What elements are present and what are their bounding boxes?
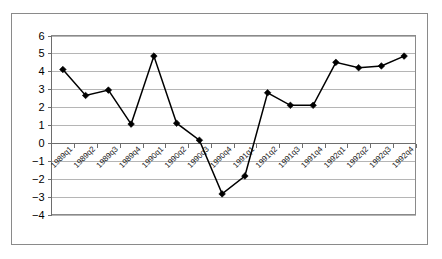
- y-tick-label: −3: [32, 191, 45, 203]
- x-tick-label: 1992q3: [368, 144, 394, 170]
- x-tick-label: 1991q3: [277, 144, 303, 170]
- x-tick-label: 1992q4: [390, 144, 416, 170]
- x-tick-label: 1990q2: [163, 144, 189, 170]
- x-tick-label: 1990q1: [140, 144, 166, 170]
- x-tick-label: 1989q3: [95, 144, 121, 170]
- chart-svg: 6543210−1−2−3−41989q11989q21989q31989q41…: [0, 0, 442, 259]
- data-point-marker: [378, 63, 385, 70]
- x-tick-label: 1989q2: [72, 144, 98, 170]
- y-tick-label: −1: [32, 155, 45, 167]
- y-tick-label: 1: [38, 119, 44, 131]
- y-tick-label: 5: [38, 47, 44, 59]
- x-axis-labels: 1989q11989q21989q31989q41990q11990q21990…: [49, 144, 416, 170]
- y-tick-label: 4: [38, 65, 44, 77]
- x-tick-label: 1991q4: [299, 144, 325, 170]
- data-point-marker: [355, 64, 362, 71]
- x-tick-label: 1990q3: [186, 144, 212, 170]
- x-tick-label: 1992q1: [322, 144, 348, 170]
- line-chart: 6543210−1−2−3−41989q11989q21989q31989q41…: [0, 0, 442, 259]
- y-tick-label: −2: [32, 173, 45, 185]
- y-tick-label: 3: [38, 83, 44, 95]
- data-point-marker: [264, 89, 271, 96]
- y-tick-label: 6: [38, 30, 44, 42]
- y-tick-label: −4: [32, 209, 45, 221]
- y-tick-label: 0: [38, 137, 44, 149]
- y-tick-label: 2: [38, 101, 44, 113]
- x-tick-label: 1991q2: [254, 144, 280, 170]
- x-tick-label: 1990q4: [208, 144, 234, 170]
- data-point-marker: [333, 59, 340, 66]
- x-tick-label: 1989q4: [117, 144, 143, 170]
- x-tick-label: 1992q2: [345, 144, 371, 170]
- x-tick-label: 1989q1: [49, 144, 75, 170]
